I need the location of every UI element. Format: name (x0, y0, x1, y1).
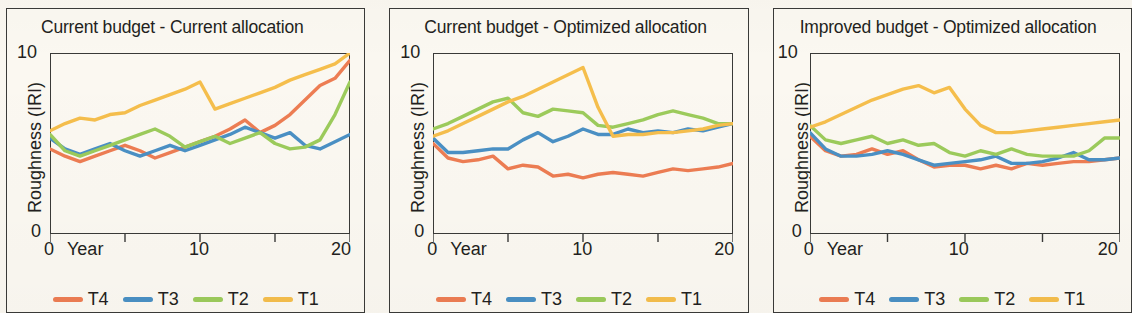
legend-item-t1[interactable]: T1 (263, 290, 319, 308)
legend-label: T3 (158, 290, 179, 308)
plot-area (433, 53, 733, 234)
x-axis-labels: 0 Year 10 20 (50, 237, 350, 267)
x-tick-20: 20 (1098, 239, 1118, 260)
legend-swatch-icon (436, 297, 466, 302)
legend-item-t2[interactable]: T2 (193, 290, 249, 308)
chart-panel-improved-optimized: Improved budget - Optimized allocation R… (773, 8, 1132, 313)
legend-item-t3[interactable]: T3 (506, 290, 562, 308)
panel-title: Improved budget - Optimized allocation (800, 17, 1097, 38)
legend-swatch-icon (889, 297, 919, 302)
legend-item-t4[interactable]: T4 (819, 290, 875, 308)
y-tick-bottom: 0 (792, 221, 802, 242)
plot-lines (433, 53, 733, 234)
legend-label: T3 (541, 290, 562, 308)
legend-label: T1 (681, 290, 702, 308)
legend-item-t3[interactable]: T3 (889, 290, 945, 308)
legend-swatch-icon (263, 297, 293, 302)
series-line-t3 (433, 124, 733, 153)
chart-panel-current-optimized: Current budget - Optimized allocation Ro… (389, 8, 748, 313)
legend: T4T3T2T1 (774, 290, 1131, 308)
legend-item-t1[interactable]: T1 (646, 290, 702, 308)
legend: T4T3T2T1 (390, 290, 747, 308)
x-tick-0: 0 (427, 239, 437, 260)
legend-label: T2 (228, 290, 249, 308)
x-tick-10: 10 (949, 239, 969, 260)
figure-panel-row: Current budget - Current allocation Roug… (0, 0, 1132, 313)
x-tick-20: 20 (331, 239, 351, 260)
legend-item-t2[interactable]: T2 (576, 290, 632, 308)
x-axis-name: Year (450, 239, 486, 260)
x-axis-labels: 0 Year 10 20 (433, 237, 733, 267)
legend-label: T2 (611, 290, 632, 308)
x-tick-10: 10 (189, 239, 209, 260)
legend-swatch-icon (193, 297, 223, 302)
panel-title: Current budget - Current allocation (41, 17, 303, 38)
legend-label: T4 (854, 290, 875, 308)
series-line-t1 (433, 67, 733, 136)
legend-label: T4 (471, 290, 492, 308)
x-tick-20: 20 (714, 239, 734, 260)
x-axis-name: Year (67, 239, 103, 260)
y-tick-top: 10 (778, 42, 798, 63)
series-line-t2 (433, 98, 733, 129)
legend-swatch-icon (819, 297, 849, 302)
x-axis-name: Year (827, 239, 863, 260)
legend-label: T1 (1064, 290, 1085, 308)
legend-label: T1 (298, 290, 319, 308)
panel-title: Current budget - Optimized allocation (424, 17, 706, 38)
y-tick-bottom: 0 (31, 221, 41, 242)
legend-swatch-icon (646, 297, 676, 302)
x-tick-10: 10 (572, 239, 592, 260)
x-tick-0: 0 (44, 239, 54, 260)
legend-swatch-icon (576, 297, 606, 302)
plot-area (810, 53, 1120, 234)
legend-label: T3 (924, 290, 945, 308)
legend-item-t1[interactable]: T1 (1029, 290, 1085, 308)
legend-swatch-icon (506, 297, 536, 302)
legend-swatch-icon (53, 297, 83, 302)
legend-label: T2 (994, 290, 1015, 308)
y-tick-top: 10 (400, 42, 420, 63)
legend-item-t3[interactable]: T3 (123, 290, 179, 308)
plot-area (50, 53, 350, 234)
legend-item-t2[interactable]: T2 (959, 290, 1015, 308)
legend-item-t4[interactable]: T4 (436, 290, 492, 308)
series-line-t4 (433, 144, 733, 178)
x-axis-labels: 0 Year 10 20 (810, 237, 1120, 267)
legend-label: T4 (88, 290, 109, 308)
chart-panel-current-current: Current budget - Current allocation Roug… (6, 8, 365, 313)
y-tick-bottom: 0 (414, 221, 424, 242)
series-line-t1 (810, 86, 1120, 133)
legend-swatch-icon (959, 297, 989, 302)
legend-swatch-icon (123, 297, 153, 302)
legend-swatch-icon (1029, 297, 1059, 302)
series-line-t1 (50, 53, 350, 131)
y-axis-label: Roughness (IRI) (408, 58, 429, 238)
plot-lines (810, 53, 1120, 234)
legend-item-t4[interactable]: T4 (53, 290, 109, 308)
legend: T4T3T2T1 (7, 290, 364, 308)
y-axis-label: Roughness (IRI) (25, 58, 46, 238)
x-tick-0: 0 (804, 239, 814, 260)
y-tick-top: 10 (17, 42, 37, 63)
plot-lines (50, 53, 350, 234)
